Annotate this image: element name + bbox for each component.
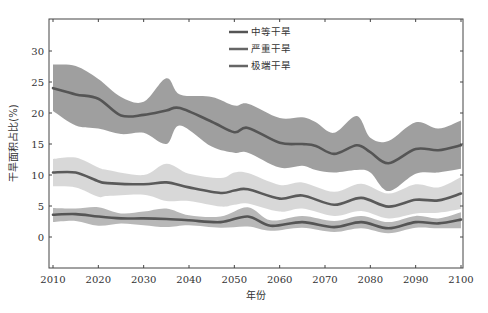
x-tick-label: 2010 xyxy=(40,274,65,285)
legend-label-extreme: 极端干旱 xyxy=(251,60,291,71)
x-axis-title: 年份 xyxy=(246,289,266,301)
y-axis-title: 干旱面积占比(%) xyxy=(7,104,19,181)
x-tick-label: 2060 xyxy=(267,274,292,285)
y-tick-label: 30 xyxy=(31,46,44,57)
legend-label-severe: 严重干旱 xyxy=(251,43,291,54)
y-tick-label: 5 xyxy=(38,201,44,212)
drought-area-chart: 2010202020302040205020602070208020902100… xyxy=(0,0,488,313)
y-tick-label: 25 xyxy=(31,77,44,88)
y-tick-label: 15 xyxy=(31,139,44,150)
x-tick-label: 2030 xyxy=(131,274,156,285)
x-tick-label: 2020 xyxy=(86,274,111,285)
x-tick-label: 2100 xyxy=(448,274,473,285)
y-tick-label: 10 xyxy=(31,170,44,181)
legend: 中等干旱 严重干旱 极端干旱 xyxy=(229,26,291,71)
x-tick-label: 2050 xyxy=(222,274,247,285)
legend-label-moderate: 中等干旱 xyxy=(251,26,291,37)
x-tick-label: 2080 xyxy=(358,274,383,285)
y-tick-label: 0 xyxy=(38,232,44,243)
uncertainty-bands xyxy=(53,64,461,233)
x-tick-label: 2090 xyxy=(403,274,428,285)
x-tick-label: 2070 xyxy=(312,274,337,285)
x-tick-label: 2040 xyxy=(176,274,201,285)
y-tick-label: 20 xyxy=(31,108,44,119)
